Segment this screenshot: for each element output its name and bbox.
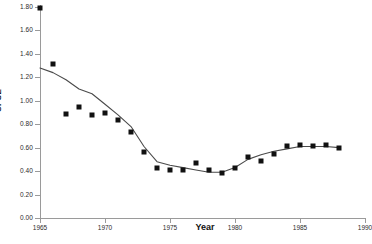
data-point-marker	[220, 171, 225, 176]
y-tick-label: 1.40	[0, 50, 33, 57]
data-point-marker	[324, 143, 329, 148]
data-point-marker	[337, 145, 342, 150]
y-tick-label: 1.60	[0, 26, 33, 33]
data-point-marker	[38, 6, 43, 11]
x-tick-label: 1980	[228, 224, 242, 231]
data-point-marker	[285, 144, 290, 149]
data-point-marker	[64, 111, 69, 116]
y-tick-label: 1.80	[0, 3, 33, 10]
y-tick-label: 0.20	[0, 191, 33, 198]
y-tick	[35, 30, 41, 31]
y-tick	[35, 54, 41, 55]
y-tick	[35, 101, 41, 102]
data-point-marker	[233, 165, 238, 170]
data-point-marker	[142, 150, 147, 155]
data-point-marker	[90, 112, 95, 117]
y-tick-label: 0.60	[0, 144, 33, 151]
data-point-marker	[116, 117, 121, 122]
data-point-marker	[311, 144, 316, 149]
data-point-marker	[272, 151, 277, 156]
x-tick	[105, 218, 106, 223]
x-tick	[365, 218, 366, 223]
x-tick	[300, 218, 301, 223]
x-tick	[235, 218, 236, 223]
data-point-marker	[259, 158, 264, 163]
data-point-marker	[207, 167, 212, 172]
data-point-marker	[103, 110, 108, 115]
data-point-marker	[155, 165, 160, 170]
x-axis-title: Year	[195, 222, 214, 232]
x-tick	[40, 218, 41, 223]
y-tick-label: 1.20	[0, 73, 33, 80]
x-tick-label: 1990	[358, 224, 372, 231]
y-tick-label: 0.80	[0, 120, 33, 127]
x-tick-label: 1985	[293, 224, 307, 231]
data-point-marker	[298, 143, 303, 148]
x-axis-line	[40, 218, 365, 219]
x-tick	[170, 218, 171, 223]
data-point-marker	[168, 167, 173, 172]
y-tick	[35, 124, 41, 125]
data-point-marker	[181, 167, 186, 172]
y-tick-label: 0.40	[0, 167, 33, 174]
data-point-marker	[129, 130, 134, 135]
data-point-marker	[194, 160, 199, 165]
y-tick	[35, 77, 41, 78]
x-tick-label: 1975	[163, 224, 177, 231]
y-tick	[35, 148, 41, 149]
x-tick-label: 1970	[98, 224, 112, 231]
y-tick	[35, 195, 41, 196]
y-tick-label: 1.00	[0, 97, 33, 104]
y-tick-label: 0.00	[0, 214, 33, 221]
y-axis-line	[40, 5, 41, 219]
data-point-marker	[77, 104, 82, 109]
y-tick	[35, 171, 41, 172]
data-point-marker	[51, 62, 56, 67]
data-point-marker	[246, 155, 251, 160]
x-tick-label: 1965	[33, 224, 47, 231]
